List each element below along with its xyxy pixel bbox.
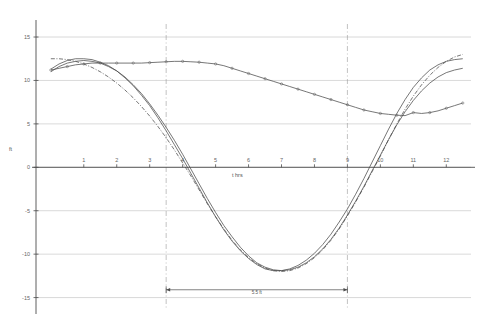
x-tick-label: 11 — [410, 157, 416, 163]
y-tick-label: -10 — [22, 251, 30, 257]
span-dimension-label: 5.5 ft — [252, 290, 263, 295]
y-tick-label: 0 — [27, 164, 30, 170]
data-series — [50, 54, 464, 271]
annotations: 5.5 ft — [166, 286, 347, 295]
series-line-curve-c-dashdot — [51, 54, 463, 271]
y-axis-title: ft — [9, 146, 13, 152]
x-axis-title: t hrs — [232, 172, 243, 178]
x-tick-label: 7 — [280, 157, 283, 163]
y-tick-label: 10 — [24, 77, 30, 83]
y-tick-label: -15 — [22, 295, 30, 301]
series-line-curve-b-solid — [51, 59, 463, 271]
y-tick-label: 5 — [27, 121, 30, 127]
x-tick-label: 5 — [214, 157, 217, 163]
series-line-curve-a-solid — [51, 60, 463, 270]
y-tick-label: 15 — [24, 34, 30, 40]
series-line-upper-curve-markers — [51, 61, 463, 115]
x-tick-label: 8 — [313, 157, 316, 163]
x-tick-label: 2 — [115, 157, 118, 163]
chart-container: 151050-5-10-15123456789101112 5.5 ft ft … — [0, 0, 480, 317]
line-chart: 151050-5-10-15123456789101112 5.5 ft ft … — [0, 0, 480, 317]
axis-titles: ft t hrs — [9, 146, 243, 178]
x-tick-label: 1 — [82, 157, 85, 163]
axes — [32, 20, 475, 314]
x-tick-label: 6 — [247, 157, 250, 163]
x-tick-label: 12 — [443, 157, 449, 163]
x-tick-label: 3 — [148, 157, 151, 163]
y-tick-label: -5 — [25, 208, 30, 214]
x-tick-label: 9 — [346, 157, 349, 163]
vertical-marker-lines — [166, 24, 347, 308]
